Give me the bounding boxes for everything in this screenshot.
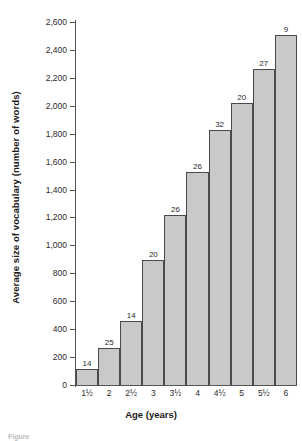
bar-value-label: 14 [120, 311, 142, 320]
x-tick-label: 1½ [76, 388, 98, 398]
y-tick-label: 400 [53, 324, 67, 334]
y-tick-mark [70, 106, 75, 107]
y-tick-label: 1,800 [46, 129, 67, 139]
y-tick-label: 1,200 [46, 212, 67, 222]
bar [186, 172, 208, 385]
y-tick-label: 2,200 [46, 73, 67, 83]
bar [275, 35, 297, 385]
bar-value-label: 32 [209, 120, 231, 129]
x-tick-label: 3½ [164, 388, 186, 398]
y-tick-label: 600 [53, 296, 67, 306]
y-tick-mark [70, 385, 75, 386]
x-tick-label: 4½ [209, 388, 231, 398]
y-tick-label: 1,400 [46, 185, 67, 195]
bar-value-label: 25 [98, 338, 120, 347]
y-tick-mark [70, 245, 75, 246]
bar [209, 130, 231, 385]
y-tick-mark [70, 22, 75, 23]
x-axis-line [74, 385, 297, 386]
x-tick-label: 3 [142, 388, 164, 398]
y-tick-mark [70, 190, 75, 191]
bar-value-label: 27 [253, 59, 275, 68]
y-axis-title: Average size of vocabulary (number of wo… [10, 33, 21, 363]
bar-column: 25 [98, 22, 120, 385]
vocabulary-growth-bar-chart: Average size of vocabulary (number of wo… [0, 0, 302, 441]
bar-value-label: 20 [231, 93, 253, 102]
bar-column: 14 [120, 22, 142, 385]
y-tick-mark [70, 273, 75, 274]
y-tick-mark [70, 162, 75, 163]
bar-value-label: 26 [164, 205, 186, 214]
bar-column: 26 [164, 22, 186, 385]
x-tick-label: 2 [98, 388, 120, 398]
x-tick-label: 2½ [120, 388, 142, 398]
plot-area: 02004006008001,0001,2001,4001,6001,8002,… [75, 22, 297, 385]
x-axis-tick-labels: 1½22½33½44½55½6 [76, 388, 297, 398]
bar [76, 369, 98, 385]
bar-column: 27 [253, 22, 275, 385]
y-tick-label: 1,000 [46, 240, 67, 250]
figure-caption: Figure [8, 433, 268, 441]
bar [164, 215, 186, 385]
bar [231, 103, 253, 385]
y-tick-mark [70, 134, 75, 135]
bar [142, 260, 164, 385]
x-tick-label: 5½ [253, 388, 275, 398]
bar [98, 348, 120, 385]
y-tick-mark [70, 301, 75, 302]
y-tick-label: 1,600 [46, 157, 67, 167]
y-tick-label: 2,400 [46, 45, 67, 55]
y-tick-label: 0 [62, 380, 67, 390]
y-tick-mark [70, 329, 75, 330]
x-tick-label: 4 [186, 388, 208, 398]
y-tick-mark [70, 217, 75, 218]
bar-column: 9 [275, 22, 297, 385]
bar-value-label: 26 [186, 162, 208, 171]
y-tick-mark [70, 357, 75, 358]
y-tick-label: 2,000 [46, 101, 67, 111]
bar-column: 20 [142, 22, 164, 385]
y-tick-mark [70, 50, 75, 51]
bar-value-label: 20 [142, 250, 164, 259]
bar-column: 14 [76, 22, 98, 385]
x-tick-label: 6 [275, 388, 297, 398]
y-tick-label: 2,600 [46, 17, 67, 27]
bar-value-label: 14 [76, 359, 98, 368]
bar-column: 32 [209, 22, 231, 385]
bar-series: 1425142026263220279 [76, 22, 297, 385]
y-tick-label: 800 [53, 268, 67, 278]
bar [120, 321, 142, 385]
y-tick-mark [70, 78, 75, 79]
y-tick-label: 200 [53, 352, 67, 362]
bar-column: 20 [231, 22, 253, 385]
bar-column: 26 [186, 22, 208, 385]
bar [253, 69, 275, 385]
bar-value-label: 9 [275, 25, 297, 34]
x-tick-label: 5 [231, 388, 253, 398]
x-axis-title: Age (years) [0, 409, 302, 420]
